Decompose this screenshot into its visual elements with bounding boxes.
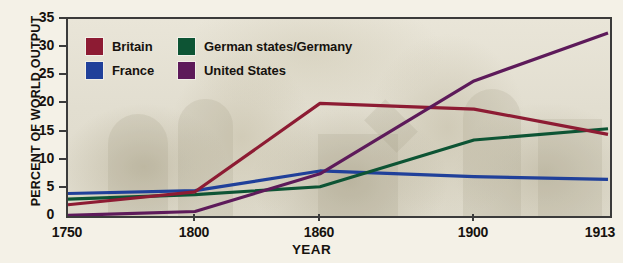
legend-label: France bbox=[112, 63, 154, 78]
x-tick-mark-1900 bbox=[472, 214, 474, 221]
legend-swatch-icon bbox=[86, 38, 103, 55]
legend-item-france: France bbox=[86, 62, 154, 79]
x-tick-label-1750: 1750 bbox=[36, 224, 98, 240]
legend-label: German states/Germany bbox=[204, 39, 352, 54]
series-line-britain bbox=[68, 103, 608, 204]
legend-label: United States bbox=[204, 63, 286, 78]
legend-item-germany: German states/Germany bbox=[178, 38, 352, 55]
legend-item-britain: Britain bbox=[86, 38, 154, 55]
legend-swatch-icon bbox=[178, 38, 195, 55]
x-tick-label-1913: 1913 bbox=[578, 224, 622, 240]
legend-swatch-icon bbox=[178, 62, 195, 79]
x-axis-title: YEAR bbox=[0, 242, 623, 257]
y-tick-mark-25 bbox=[59, 73, 66, 75]
x-tick-label-1800: 1800 bbox=[163, 224, 225, 240]
y-tick-mark-15 bbox=[59, 130, 66, 132]
y-axis-title: PERCENT OF WORLD OUTPUT bbox=[29, 11, 43, 211]
chart-figure: 35 30 25 20 15 10 5 0 1750 1800 1860 190… bbox=[0, 0, 623, 263]
x-tick-label-1900: 1900 bbox=[442, 224, 504, 240]
y-tick-mark-35 bbox=[59, 17, 66, 19]
y-tick-mark-30 bbox=[59, 45, 66, 47]
x-tick-mark-1860 bbox=[318, 214, 320, 221]
y-tick-mark-20 bbox=[59, 101, 66, 103]
legend-item-united-states: United States bbox=[178, 62, 352, 79]
legend-label: Britain bbox=[112, 39, 152, 54]
legend-swatch-icon bbox=[86, 62, 103, 79]
y-tick-mark-10 bbox=[59, 158, 66, 160]
y-tick-mark-5 bbox=[59, 186, 66, 188]
x-tick-label-1860: 1860 bbox=[288, 224, 350, 240]
legend: Britain German states/Germany France Uni… bbox=[86, 38, 352, 79]
x-tick-mark-1800 bbox=[193, 214, 195, 221]
